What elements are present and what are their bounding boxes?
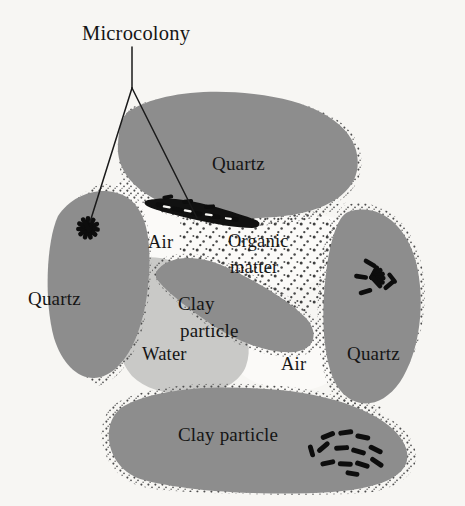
quartz-top-label: Quartz (212, 153, 265, 174)
diagram-canvas: Microcolony Quartz Quartz Quartz Air Air… (0, 0, 465, 506)
water-label: Water (142, 344, 187, 364)
quartz-right-label: Quartz (347, 343, 400, 364)
organic-matter-label-line1: Organic (228, 231, 289, 251)
clay-bottom-label: Clay particle (178, 424, 278, 445)
air-upper-label: Air (148, 232, 173, 252)
clay-center-label-line1: Clay (178, 293, 215, 314)
soil-microstructure-figure: Microcolony Quartz Quartz Quartz Air Air… (0, 0, 465, 506)
microcolony-label: Microcolony (82, 22, 191, 45)
organic-matter-label-line2: matter (230, 257, 278, 277)
quartz-left-label: Quartz (28, 288, 81, 309)
clay-center-label-line2: particle (180, 320, 239, 341)
air-lower-label: Air (281, 354, 306, 374)
